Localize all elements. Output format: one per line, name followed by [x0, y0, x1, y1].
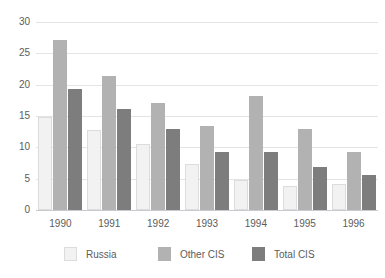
y-tick-label: 25 — [0, 48, 30, 58]
bar-group-1996 — [332, 22, 376, 210]
bar-russia-1992 — [136, 144, 150, 210]
bar-other-cis-1995 — [298, 129, 312, 210]
plot-area — [36, 22, 378, 210]
bar-total-cis-1992 — [166, 129, 180, 210]
y-tick-label: 20 — [0, 80, 30, 90]
x-tick-label-1996: 1996 — [324, 218, 384, 229]
bar-total-cis-1993 — [215, 152, 229, 210]
legend-entry-russia[interactable]: Russia — [64, 245, 117, 263]
bar-other-cis-1996 — [347, 152, 361, 210]
y-tick-label: 15 — [0, 111, 30, 121]
y-tick-label: 30 — [0, 17, 30, 27]
bar-other-cis-1990 — [53, 40, 67, 210]
bar-russia-1991 — [87, 130, 101, 210]
bar-total-cis-1995 — [313, 167, 327, 210]
y-tick-label: 0 — [0, 205, 30, 215]
bar-other-cis-1994 — [249, 96, 263, 210]
bar-chart-figure: 051015202530 199019911992199319941995199… — [0, 0, 385, 278]
bar-total-cis-1994 — [264, 152, 278, 210]
bar-russia-1994 — [234, 180, 248, 210]
bar-russia-1996 — [332, 184, 346, 210]
legend-label: Other CIS — [180, 249, 224, 260]
bar-other-cis-1993 — [200, 126, 214, 210]
bar-total-cis-1990 — [68, 89, 82, 210]
bar-groups — [36, 22, 378, 210]
legend-label: Total CIS — [274, 249, 315, 260]
y-tick-label: 10 — [0, 142, 30, 152]
bar-other-cis-1991 — [102, 76, 116, 210]
bar-russia-1995 — [283, 186, 297, 210]
chart-legend: RussiaOther CISTotal CIS — [36, 245, 378, 267]
bar-group-1995 — [283, 22, 327, 210]
legend-swatch-icon — [252, 247, 265, 261]
bar-russia-1993 — [185, 164, 199, 210]
bar-other-cis-1992 — [151, 103, 165, 210]
x-axis-tick-labels: 1990199119921993199419951996 — [36, 212, 378, 232]
bar-total-cis-1996 — [362, 175, 376, 210]
legend-label: Russia — [86, 249, 117, 260]
cropped-title-remnant — [34, 0, 364, 5]
legend-entry-other-cis[interactable]: Other CIS — [158, 245, 224, 263]
y-tick-label: 5 — [0, 174, 30, 184]
legend-swatch-icon — [158, 247, 171, 261]
bar-russia-1990 — [38, 117, 52, 210]
bar-group-1994 — [234, 22, 278, 210]
bar-group-1991 — [87, 22, 131, 210]
bar-total-cis-1991 — [117, 109, 131, 210]
gridline-0 — [36, 210, 378, 211]
bar-group-1993 — [185, 22, 229, 210]
legend-entry-total-cis[interactable]: Total CIS — [252, 245, 315, 263]
legend-swatch-icon — [64, 247, 77, 261]
bar-group-1990 — [38, 22, 82, 210]
bar-group-1992 — [136, 22, 180, 210]
